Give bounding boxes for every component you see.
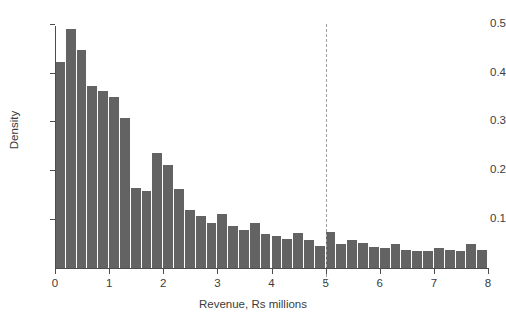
x-tick-mark <box>109 269 110 274</box>
histogram-bar <box>228 226 239 268</box>
y-tick-label: 0.1 <box>460 213 506 224</box>
y-tick-label: 0.5 <box>460 18 506 29</box>
histogram-bar <box>293 233 304 268</box>
histogram-bar <box>282 239 293 268</box>
histogram-bar <box>120 118 131 268</box>
histogram-bar <box>152 153 163 268</box>
y-tick-mark <box>50 219 55 220</box>
histogram-bar <box>477 250 488 268</box>
x-tick-mark <box>163 269 164 274</box>
reference-line-x5 <box>326 24 327 282</box>
x-tick-mark <box>380 269 381 274</box>
x-tick-mark <box>488 269 489 274</box>
y-axis-title: Density <box>8 60 20 200</box>
y-tick-mark <box>50 170 55 171</box>
histogram-bar <box>66 29 77 268</box>
plot-area <box>55 14 488 268</box>
histogram-bar <box>369 247 380 268</box>
y-tick-label: 0.4 <box>460 67 506 78</box>
histogram-bar <box>304 240 315 268</box>
histogram-bar <box>466 244 477 268</box>
histogram-bar <box>163 165 174 268</box>
histogram-bar <box>196 216 207 268</box>
x-tick-mark <box>272 269 273 274</box>
x-tick-label: 4 <box>257 277 287 289</box>
x-tick-mark <box>217 269 218 274</box>
histogram-bar <box>434 248 445 268</box>
y-tick-mark <box>50 121 55 122</box>
histogram-bar <box>142 191 153 268</box>
x-tick-mark <box>326 269 327 274</box>
histogram-bar <box>391 244 402 268</box>
histogram-bar <box>326 232 337 268</box>
x-tick-mark <box>434 269 435 274</box>
histogram-bar <box>412 251 423 268</box>
x-tick-label: 6 <box>365 277 395 289</box>
x-tick-label: 8 <box>473 277 503 289</box>
histogram-bar <box>347 240 358 268</box>
histogram-bar <box>250 223 261 268</box>
x-tick-label: 0 <box>40 277 70 289</box>
x-tick-label: 1 <box>94 277 124 289</box>
bar-series <box>55 14 488 268</box>
histogram-bar <box>315 246 326 268</box>
histogram-bar <box>456 251 467 268</box>
histogram-bar <box>131 188 142 268</box>
histogram-bar <box>423 251 434 268</box>
histogram-bar <box>98 91 109 268</box>
y-tick-label: 0.2 <box>460 164 506 175</box>
histogram-bar <box>174 189 185 268</box>
histogram-bar <box>207 223 218 268</box>
histogram-bar <box>445 250 456 268</box>
x-tick-mark <box>55 269 56 274</box>
histogram-bar <box>217 214 228 268</box>
histogram-bar <box>55 62 66 268</box>
x-tick-label: 7 <box>419 277 449 289</box>
histogram-bar <box>185 210 196 268</box>
y-tick-mark <box>50 24 55 25</box>
histogram-bar <box>272 236 283 268</box>
x-tick-label: 5 <box>311 277 341 289</box>
x-tick-label: 2 <box>148 277 178 289</box>
histogram-bar <box>87 86 98 268</box>
histogram-bar <box>336 244 347 268</box>
histogram-bar <box>239 230 250 268</box>
y-axis-line <box>55 26 56 268</box>
histogram-bar <box>77 50 88 268</box>
histogram-bar <box>109 97 120 268</box>
y-tick-label: 0.3 <box>460 115 506 126</box>
histogram-bar <box>401 250 412 268</box>
x-tick-label: 3 <box>202 277 232 289</box>
y-tick-mark <box>50 73 55 74</box>
histogram-bar <box>358 243 369 268</box>
x-axis-title: Revenue, Rs millions <box>0 298 506 310</box>
histogram-bar <box>380 248 391 269</box>
density-histogram-figure: 0.10.20.30.40.5 012345678 Revenue, Rs mi… <box>0 0 506 330</box>
histogram-bar <box>261 234 272 268</box>
